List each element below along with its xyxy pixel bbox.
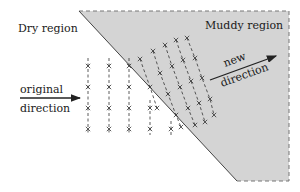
dry-region-label: Dry region [18, 22, 78, 35]
refraction-diagram: Dry region Muddy region original directi… [0, 0, 300, 192]
muddy-region [79, 11, 289, 181]
original-direction-label-1: original [20, 83, 64, 96]
original-direction-label-2: direction [20, 102, 70, 115]
wavefront-cross-icon [179, 125, 183, 129]
muddy-region-label: Muddy region [205, 19, 283, 32]
wavefront-cross-icon [127, 85, 131, 89]
wavefront-cross-icon [155, 106, 159, 110]
wavefront-cross-icon [86, 85, 90, 89]
wavefront-cross-icon [148, 127, 152, 131]
wavefront-cross-icon [107, 85, 111, 89]
